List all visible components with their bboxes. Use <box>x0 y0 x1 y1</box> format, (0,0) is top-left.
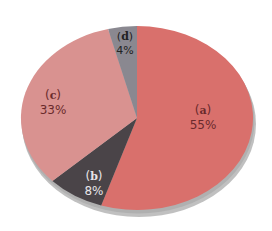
slice-c-label: (c) 33% <box>28 88 78 117</box>
slice-d-percent: 4% <box>111 44 139 58</box>
slice-d-label: (d) 4% <box>111 30 139 58</box>
slice-c-percent: 33% <box>28 103 78 117</box>
pie-chart: (a) 55% (b) 8% (c) 33% (d) 4% <box>0 0 272 231</box>
slice-a-key: (a) <box>195 103 212 117</box>
slice-a-percent: 55% <box>178 118 228 132</box>
slice-b-label: (b) 8% <box>74 169 114 198</box>
slice-b-key: (b) <box>85 169 102 183</box>
slice-b-percent: 8% <box>74 184 114 198</box>
slice-c-key: (c) <box>45 88 61 102</box>
slice-a-label: (a) 55% <box>178 103 228 132</box>
slice-d-key: (d) <box>117 30 133 43</box>
